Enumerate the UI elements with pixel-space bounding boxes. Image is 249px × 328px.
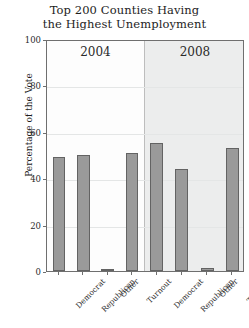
x-tick-mark xyxy=(206,272,207,275)
x-tick-mark xyxy=(156,272,157,275)
y-tick-label: 80 xyxy=(30,81,41,91)
x-tick-mark xyxy=(58,272,59,275)
y-tick-label: 0 xyxy=(36,267,41,277)
x-axis-ticks: DemocratRepublicanOtherTurnoutDemocratRe… xyxy=(46,272,244,328)
x-tick-label: Turnout xyxy=(145,277,173,305)
bar-series xyxy=(47,41,243,271)
x-tick-label: Turnout xyxy=(245,277,249,305)
x-tick-label: Other xyxy=(118,277,140,299)
x-tick-mark xyxy=(231,272,232,275)
bar xyxy=(150,143,163,271)
bar xyxy=(53,157,66,271)
x-tick-mark xyxy=(82,272,83,275)
y-tick-label: 40 xyxy=(30,174,41,184)
y-tick-label: 100 xyxy=(25,35,41,45)
y-tick-label: 60 xyxy=(30,128,41,138)
bar xyxy=(226,148,239,271)
x-tick-mark xyxy=(107,272,108,275)
x-tick-label: Other xyxy=(218,277,240,299)
x-tick-mark xyxy=(181,272,182,275)
bar xyxy=(201,268,214,271)
y-axis-ticks: 020406080100 xyxy=(0,0,44,328)
bar xyxy=(77,155,90,271)
y-tick-label: 20 xyxy=(30,221,41,231)
chart-figure: Top 200 Counties Having the Highest Unem… xyxy=(0,0,249,328)
bar xyxy=(175,169,188,271)
plot-area: 2004 2008 xyxy=(46,40,244,272)
bar xyxy=(126,153,139,271)
bar xyxy=(101,269,114,271)
x-tick-mark xyxy=(131,272,132,275)
